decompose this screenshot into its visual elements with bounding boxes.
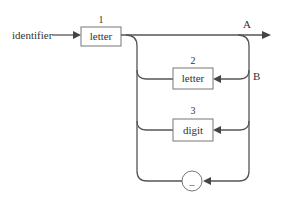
point-a-label: A [243, 18, 251, 30]
node-2-number: 2 [191, 55, 196, 66]
branch-3-right [218, 121, 249, 130]
branch-2-right [218, 70, 249, 79]
syntax-diagram: identifier 1 letter A 2 letter B 3 digit… [0, 0, 282, 200]
node-1-label: letter [90, 30, 113, 42]
node-3-number: 3 [191, 105, 196, 116]
arrow-head-icon [213, 126, 221, 134]
node-3-label: digit [183, 124, 203, 136]
branch-2-left [137, 70, 173, 79]
node-2-label: letter [182, 72, 205, 84]
arrow-head-icon [203, 177, 211, 185]
loop-left-path [126, 35, 182, 181]
loop-right-path [208, 35, 249, 181]
node-1-number: 1 [99, 14, 104, 25]
branch-3-left [137, 121, 173, 130]
arrow-head-icon [73, 31, 81, 39]
underscore-label: _ [189, 175, 196, 186]
arrow-head-icon [213, 75, 221, 83]
entry-label: identifier [12, 29, 53, 41]
point-b-label: B [253, 70, 260, 82]
exit-arrow-head-icon [262, 31, 271, 39]
